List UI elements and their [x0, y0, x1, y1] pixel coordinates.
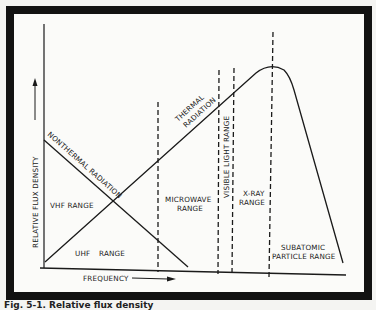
x-axis-arrow-icon — [167, 277, 176, 282]
xray-range-label: RANGE — [239, 198, 265, 207]
visible-light-range-label: VISIBLE LIGHT RANGE — [222, 116, 231, 198]
uhf-label: UHF — [75, 249, 90, 258]
vhf-range-label: VHF RANGE — [50, 201, 94, 210]
y-axis-arrow-icon — [33, 78, 38, 86]
divider-xray-subatomic — [269, 32, 273, 277]
xray-label: X-RAY — [243, 189, 265, 198]
flux-density-diagram: RELATIVE FLUX DENSITY FREQUENCY NONTHERM… — [0, 0, 376, 310]
figure-caption: Fig. 5-1. Relative flux density — [4, 300, 153, 310]
microwave-label: MICROWAVE — [165, 195, 212, 204]
subatomic-label: SUBATOMIC — [281, 243, 325, 252]
particle-range-label: PARTICLE RANGE — [272, 252, 336, 261]
microwave-range-label: RANGE — [177, 204, 203, 213]
divider-microwave-visible — [218, 70, 219, 274]
x-axis-arrow-shaft — [132, 278, 168, 279]
x-axis-label: FREQUENCY — [83, 274, 129, 283]
nonthermal-radiation-label: NONTHERMAL RADIATION — [46, 130, 124, 201]
divider-visible-xray — [232, 68, 234, 274]
uhf-range-label: RANGE — [99, 249, 125, 258]
y-axis-label: RELATIVE FLUX DENSITY — [31, 156, 40, 248]
